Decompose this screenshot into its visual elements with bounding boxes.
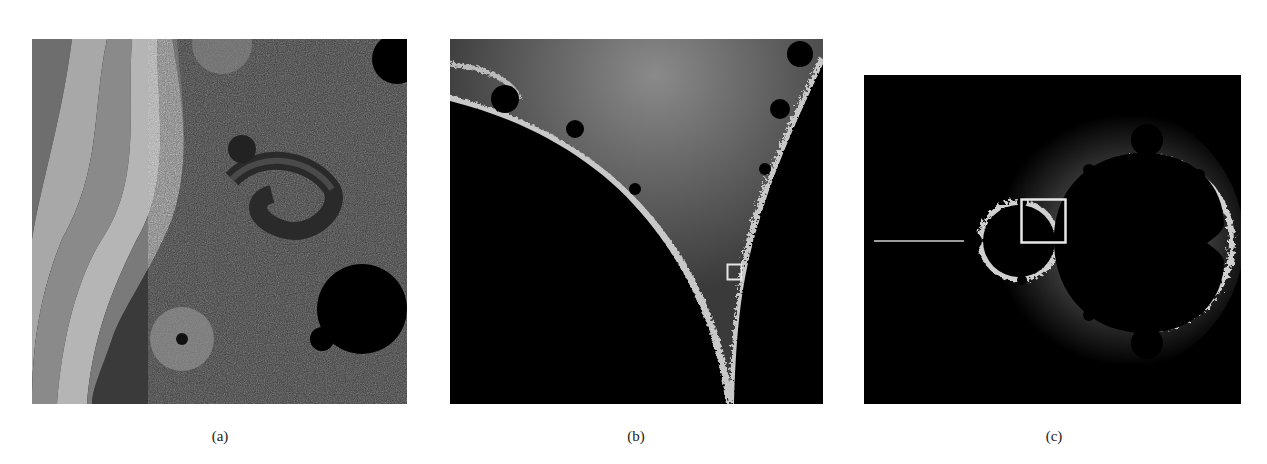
caption-b: (b): [616, 428, 656, 445]
fractal-image-a: [32, 39, 407, 404]
caption-a: (a): [200, 428, 240, 445]
fractal-panel-c: [864, 75, 1241, 404]
fractal-image-b: [450, 39, 823, 404]
fractal-panel-a: [32, 39, 407, 404]
fractal-image-c: [864, 75, 1241, 404]
caption-c: (c): [1034, 428, 1074, 445]
fractal-panel-b: [450, 39, 823, 404]
